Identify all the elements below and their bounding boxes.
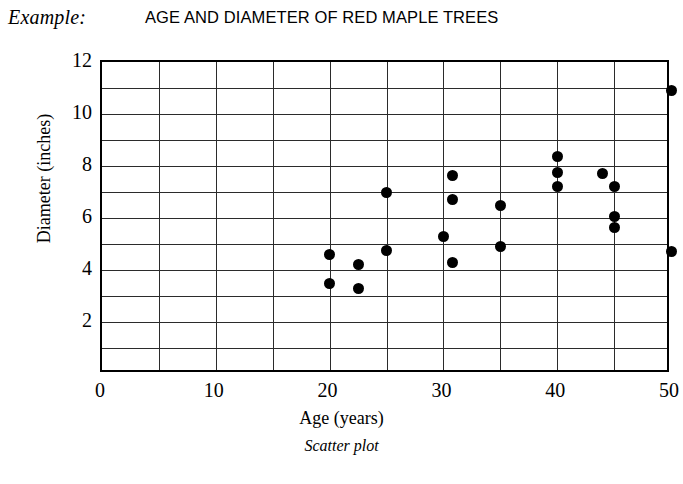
y-axis-tick-labels: 24681012 bbox=[48, 60, 92, 372]
data-point bbox=[609, 222, 620, 233]
chart-header: Example: AGE AND DIAMETER OF RED MAPLE T… bbox=[0, 2, 683, 38]
data-point bbox=[381, 245, 392, 256]
data-point bbox=[495, 241, 506, 252]
plot-area bbox=[100, 60, 669, 372]
y-tick-label: 2 bbox=[52, 310, 92, 330]
x-tick-label: 0 bbox=[70, 378, 130, 402]
y-tick-label: 10 bbox=[52, 102, 92, 122]
data-point bbox=[666, 246, 677, 257]
data-point bbox=[324, 278, 335, 289]
data-point bbox=[495, 200, 506, 211]
data-point bbox=[666, 85, 677, 96]
y-tick-label: 6 bbox=[52, 206, 92, 226]
data-point bbox=[552, 181, 563, 192]
data-point bbox=[381, 187, 392, 198]
y-tick-label: 12 bbox=[52, 50, 92, 70]
x-tick-label: 50 bbox=[639, 378, 683, 402]
x-tick-label: 30 bbox=[411, 378, 471, 402]
x-tick-label: 10 bbox=[184, 378, 244, 402]
x-tick-label: 40 bbox=[525, 378, 585, 402]
data-point bbox=[353, 283, 364, 294]
x-axis-title: Age (years) bbox=[0, 408, 683, 429]
chart-title: AGE AND DIAMETER OF RED MAPLE TREES bbox=[145, 8, 498, 27]
data-point bbox=[552, 151, 563, 162]
y-tick-label: 4 bbox=[52, 258, 92, 278]
data-point bbox=[353, 259, 364, 270]
y-axis-title: Diameter (inches) bbox=[34, 59, 55, 299]
data-point bbox=[447, 170, 458, 181]
data-point bbox=[324, 249, 335, 260]
data-point bbox=[552, 167, 563, 178]
x-tick-label: 20 bbox=[298, 378, 358, 402]
scatter-points bbox=[102, 62, 667, 370]
example-label: Example: bbox=[8, 6, 86, 29]
x-axis-tick-labels: 01020304050 bbox=[0, 378, 683, 408]
data-point bbox=[447, 257, 458, 268]
figure-caption: Scatter plot bbox=[0, 437, 683, 455]
data-point bbox=[438, 231, 449, 242]
y-tick-label: 8 bbox=[52, 154, 92, 174]
data-point bbox=[609, 181, 620, 192]
data-point bbox=[597, 168, 608, 179]
data-point bbox=[609, 211, 620, 222]
data-point bbox=[447, 194, 458, 205]
